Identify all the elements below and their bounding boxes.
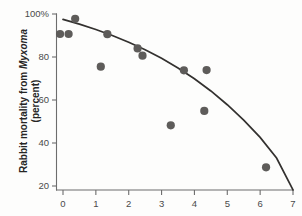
y-tick-label: 100%: [25, 8, 50, 19]
data-point: [200, 107, 208, 115]
y-tick-label: 20: [38, 180, 49, 191]
data-point: [138, 52, 146, 60]
fitted-trend-curve: [63, 19, 293, 189]
x-tick-label: 3: [159, 198, 164, 209]
data-point: [202, 66, 210, 74]
data-point: [56, 30, 64, 38]
data-point: [97, 63, 105, 71]
data-point: [167, 121, 175, 129]
y-tick-label: 60: [38, 94, 49, 105]
x-tick-label: 7: [290, 198, 295, 209]
x-tick-label: 0: [60, 198, 65, 209]
data-point: [180, 66, 188, 74]
data-point: [133, 44, 141, 52]
data-point: [262, 163, 270, 171]
x-axis-ticks: 01234567: [60, 190, 295, 209]
scatter-plot-canvas: 20406080100% 01234567: [0, 0, 302, 216]
data-point: [64, 30, 72, 38]
data-point: [71, 15, 79, 23]
x-tick-label: 4: [192, 198, 197, 209]
x-tick-label: 5: [225, 198, 230, 209]
chart-figure: Rabbit mortality from Myxoma (percent) 2…: [0, 0, 302, 216]
y-tick-label: 40: [38, 137, 49, 148]
data-point: [103, 30, 111, 38]
y-tick-label: 80: [38, 51, 49, 62]
data-points: [56, 15, 270, 172]
x-tick-label: 2: [126, 198, 131, 209]
y-axis-ticks: 20406080100%: [25, 8, 57, 191]
x-tick-label: 1: [93, 198, 98, 209]
x-tick-label: 6: [257, 198, 262, 209]
